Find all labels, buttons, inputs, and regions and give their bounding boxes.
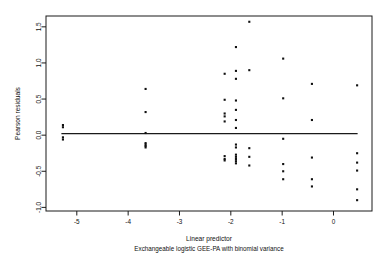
data-point	[224, 120, 226, 122]
data-point	[224, 159, 226, 161]
data-point	[311, 157, 313, 159]
data-point	[62, 136, 64, 138]
data-point	[224, 99, 226, 101]
data-point	[235, 144, 237, 146]
data-point	[356, 199, 358, 201]
data-point	[311, 185, 313, 187]
data-point	[311, 83, 313, 85]
data-point	[62, 138, 64, 140]
data-point	[248, 164, 250, 166]
x-axis-tick-label: -4	[125, 218, 131, 225]
data-point	[224, 155, 226, 157]
data-point	[356, 152, 358, 154]
data-point	[356, 170, 358, 172]
data-point	[282, 178, 284, 180]
data-point	[235, 46, 237, 48]
data-point	[235, 154, 237, 156]
data-point	[235, 158, 237, 160]
data-point	[145, 132, 147, 134]
data-point	[235, 70, 237, 72]
y-axis-tick-label: 1.0	[35, 58, 42, 67]
y-axis-tick-label: -1.0	[35, 201, 42, 212]
data-point	[145, 146, 147, 148]
data-point	[235, 127, 237, 129]
y-axis-label: Pearson residuals	[14, 86, 21, 139]
data-point	[62, 124, 64, 126]
data-point	[62, 126, 64, 128]
y-axis-tick-label: -0.5	[35, 165, 42, 176]
data-point	[235, 156, 237, 158]
data-point	[235, 160, 237, 162]
data-point	[248, 156, 250, 158]
x-axis-label: Linear predictor	[186, 235, 233, 243]
data-point	[235, 109, 237, 111]
x-axis-sublabel: Exchangeable logistic GEE-PA with binomi…	[134, 245, 284, 253]
data-point	[282, 58, 284, 60]
x-axis-tick-label: -5	[74, 218, 80, 225]
data-point	[235, 146, 237, 148]
data-point	[248, 21, 250, 23]
data-point	[282, 138, 284, 140]
data-point	[356, 188, 358, 190]
data-point	[356, 84, 358, 86]
x-axis-tick-label: 0	[332, 218, 336, 225]
data-point	[235, 99, 237, 101]
data-point	[235, 162, 237, 164]
data-point	[235, 78, 237, 80]
data-point	[145, 111, 147, 113]
data-point	[248, 69, 250, 71]
data-point	[356, 162, 358, 164]
scatter-plot-figure: -5-4-3-2-10-1.0-0.50.00.51.01.5Linear pr…	[0, 0, 383, 260]
data-point	[311, 178, 313, 180]
data-point	[224, 115, 226, 117]
y-axis-tick-label: 0.0	[35, 130, 42, 139]
data-point	[224, 73, 226, 75]
data-point	[282, 163, 284, 165]
plot-frame	[46, 16, 372, 211]
data-point	[235, 119, 237, 121]
data-point	[311, 119, 313, 121]
data-point	[282, 170, 284, 172]
x-axis-tick-label: -3	[177, 218, 183, 225]
x-axis-tick-label: -1	[279, 218, 285, 225]
x-axis-tick-label: -2	[228, 218, 234, 225]
chart-canvas: -5-4-3-2-10-1.0-0.50.00.51.01.5Linear pr…	[0, 0, 383, 260]
data-point	[282, 97, 284, 99]
y-axis-tick-label: 1.5	[35, 22, 42, 31]
data-point	[224, 112, 226, 114]
y-axis-tick-label: 0.5	[35, 94, 42, 103]
data-point	[248, 147, 250, 149]
data-point	[145, 88, 147, 90]
